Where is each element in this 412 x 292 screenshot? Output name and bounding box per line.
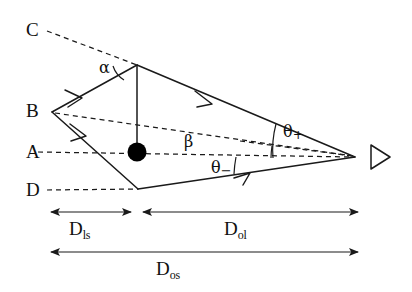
ray-lower-deflection-to-observer (138, 157, 355, 189)
arrowhead-lower-ray (70, 124, 86, 141)
ray-source-to-upper-deflection (52, 65, 137, 112)
d-ol-main: D (224, 218, 238, 239)
theta-plus-arc (273, 124, 276, 158)
dashed-optical-axis (38, 152, 353, 157)
plane-label-d: D (26, 180, 40, 199)
dashed-line-D-to-image (47, 189, 138, 190)
dashed-construction-lines (38, 31, 353, 190)
lensing-diagram-svg (0, 0, 412, 292)
d-os-main: D (156, 258, 170, 279)
theta-plus-sign: + (293, 127, 304, 142)
distance-arrows (51, 212, 358, 252)
lensing-figure: C B A D α β θ+ θ− Dls Dol Dos (0, 0, 412, 292)
lens-mass-disc (128, 143, 147, 162)
d-ol-label: Dol (224, 219, 247, 238)
ray-upper-deflection-to-observer (137, 65, 355, 157)
alpha-label: α (99, 60, 110, 76)
d-os-sub: os (170, 268, 180, 282)
solid-ray-paths (52, 65, 355, 189)
d-ls-main: D (69, 218, 83, 239)
theta-minus-label: θ− (211, 160, 232, 176)
beta-arc (271, 146, 272, 158)
plane-label-a: A (26, 142, 40, 161)
d-os-label: Dos (156, 259, 180, 278)
observer-eye-icon (371, 145, 390, 169)
theta-plus-symbol: θ (283, 122, 293, 141)
plane-label-b: B (26, 101, 39, 120)
arrowhead-upper-ray (65, 90, 82, 107)
dashed-line-C-to-image (47, 31, 137, 65)
beta-label: β (184, 134, 193, 150)
d-ls-sub: ls (83, 228, 91, 242)
d-ls-label: Dls (69, 219, 90, 238)
theta-plus-label: θ+ (283, 124, 304, 140)
ray-source-to-lower-deflection (52, 112, 138, 189)
dashed-line-B-to-observer (55, 113, 353, 156)
theta-minus-arc (234, 157, 236, 174)
plane-label-c: C (26, 20, 39, 39)
theta-minus-sign: − (221, 163, 232, 178)
d-ol-sub: ol (238, 228, 247, 242)
theta-minus-symbol: θ (211, 158, 221, 177)
